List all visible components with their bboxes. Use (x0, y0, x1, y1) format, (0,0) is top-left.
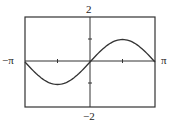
y-min-label: −2 (83, 110, 95, 122)
x-min-label: −π (2, 54, 14, 66)
x-max-label: π (161, 54, 167, 66)
y-max-label: 2 (86, 3, 92, 15)
